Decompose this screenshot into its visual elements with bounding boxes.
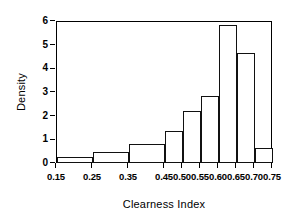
x-axis-tick: [271, 163, 272, 168]
y-axis-tick-label: 4: [8, 63, 48, 73]
y-axis-tick-label: 1: [8, 134, 48, 144]
histogram-bar: [237, 53, 255, 163]
plot-area: [56, 21, 272, 163]
x-axis-title: Clearness Index: [56, 198, 272, 211]
histogram-bar: [183, 111, 201, 163]
y-axis-tick: [50, 91, 55, 92]
x-axis-tick-label: 0.75: [260, 171, 284, 182]
histogram-bar: [255, 148, 273, 163]
x-axis-tick: [235, 163, 236, 168]
y-axis-tick: [50, 115, 55, 116]
x-axis-tick: [127, 163, 128, 168]
x-axis-tick: [55, 163, 56, 168]
histogram-bar: [57, 157, 93, 163]
histogram-bar: [219, 25, 237, 163]
x-axis-tick: [253, 163, 254, 168]
x-axis-tick-label: 0.35: [116, 171, 140, 182]
x-axis-tick: [163, 163, 164, 168]
histogram-bar: [201, 96, 219, 163]
histogram-bars: [57, 22, 271, 162]
y-axis-tick-label: 3: [8, 87, 48, 97]
y-axis-tick-label: 0: [8, 158, 48, 168]
y-axis-tick-label: 5: [8, 40, 48, 50]
y-axis-tick-label: 2: [8, 111, 48, 121]
y-axis-tick: [50, 44, 55, 45]
histogram-bar: [165, 131, 183, 163]
histogram-bar: [93, 152, 129, 163]
x-axis-tick: [199, 163, 200, 168]
x-axis-tick-label: 0.15: [44, 171, 68, 182]
x-axis-tick: [181, 163, 182, 168]
y-axis-tick-label: 6: [8, 16, 48, 26]
x-axis-tick: [217, 163, 218, 168]
histogram-bar: [129, 144, 165, 163]
y-axis-tick: [50, 68, 55, 69]
histogram-figure: Density 0123456 0.150.250.350.450.500.55…: [0, 0, 296, 219]
y-axis-tick: [50, 139, 55, 140]
x-axis-tick: [91, 163, 92, 168]
y-axis-tick: [50, 162, 55, 163]
x-axis-tick-label: 0.25: [80, 171, 104, 182]
y-axis-tick: [50, 20, 55, 21]
